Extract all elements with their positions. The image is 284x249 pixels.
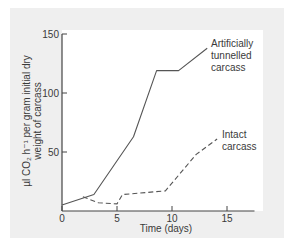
- x-tick-label: 15: [221, 213, 233, 224]
- labels-group: ArtificiallytunnelledcarcassIntactcarcas…: [211, 38, 256, 152]
- series-tunnelled-line: [62, 48, 207, 205]
- series-group: [62, 48, 217, 205]
- y-tick-label: 50: [48, 147, 60, 158]
- y-tick-label: 150: [42, 29, 59, 40]
- label-tunnelled-carcass: Artificiallytunnelledcarcass: [211, 38, 253, 73]
- line-chart: 05101550100150Time (days)µl CO₂ h⁻¹ per …: [0, 0, 284, 249]
- x-tick-label: 0: [59, 213, 65, 224]
- x-axis-title: Time (days): [140, 223, 192, 234]
- label-intact-carcass: Intactcarcass: [222, 129, 256, 152]
- x-tick-label: 5: [114, 213, 120, 224]
- series-intact-line: [83, 139, 217, 204]
- y-tick-label: 100: [42, 88, 59, 99]
- y-axis-title: µl CO₂ h⁻¹ per gram initial dryweight of…: [21, 55, 43, 187]
